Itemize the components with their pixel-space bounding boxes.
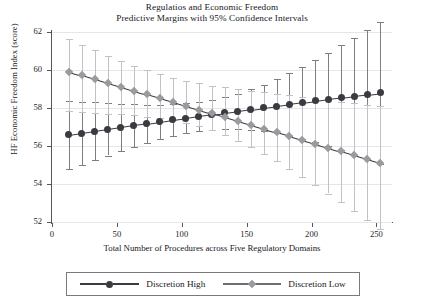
error-bar-cap	[261, 92, 268, 93]
error-bar	[251, 91, 252, 147]
y-tick-label: 54	[20, 178, 42, 188]
error-bar-cap	[377, 22, 384, 23]
error-bar	[238, 89, 239, 141]
error-bar-cap	[248, 91, 255, 92]
data-point-marker	[155, 94, 163, 102]
error-bar-cap	[286, 169, 293, 170]
legend-label-high: Discretion High	[146, 279, 205, 289]
data-point-marker	[260, 104, 267, 111]
error-bar-cap	[105, 56, 112, 57]
data-point-marker	[363, 155, 371, 163]
data-point-marker	[285, 132, 293, 140]
legend-item-discretion-low[interactable]: Discretion Low	[223, 279, 345, 289]
legend-line-low	[223, 283, 249, 284]
data-point-marker	[143, 120, 150, 127]
data-point-marker	[364, 91, 371, 98]
data-point-marker	[350, 151, 358, 159]
error-bar-cap	[235, 89, 242, 90]
data-point-marker	[142, 90, 150, 98]
data-point-marker	[325, 96, 332, 103]
plot-area	[52, 32, 392, 222]
error-bar-cap	[118, 151, 125, 152]
error-bar-cap	[377, 229, 384, 230]
error-bar-cap	[118, 114, 125, 115]
y-tick-label: 60	[20, 64, 42, 74]
data-point-marker	[233, 117, 241, 125]
x-axis-label: Total Number of Procedures across Five R…	[0, 243, 424, 253]
data-point-marker	[65, 131, 72, 138]
data-point-marker	[104, 79, 112, 87]
error-bar-cap	[274, 94, 281, 95]
legend-label-low: Discretion Low	[288, 279, 345, 289]
data-point-marker	[324, 143, 332, 151]
data-point-marker	[78, 130, 85, 137]
chart-figure: Regulatios and Economic Freedom Predicti…	[0, 0, 424, 307]
data-point-marker	[338, 94, 345, 101]
chart-subtitle: Predictive Margins with 95% Confidence I…	[0, 13, 424, 24]
error-bar-cap	[92, 160, 99, 161]
error-bar-cap	[377, 106, 384, 107]
x-tick-label: 200	[292, 229, 332, 239]
error-bar-cap	[196, 126, 203, 127]
error-bar	[264, 92, 265, 154]
data-point-marker	[377, 89, 384, 96]
error-bar-cap	[325, 194, 332, 195]
error-bar-cap	[183, 81, 190, 82]
x-tick-label: 250	[356, 229, 396, 239]
error-bar-cap	[79, 112, 86, 113]
error-bar-cap	[183, 123, 190, 124]
error-bar-cap	[274, 161, 281, 162]
data-point-marker	[130, 86, 138, 94]
legend-line-high-2	[113, 283, 139, 284]
data-point-marker	[247, 106, 254, 113]
data-point-marker	[156, 118, 163, 125]
error-bar-cap	[261, 154, 268, 155]
data-point-marker	[298, 136, 306, 144]
y-axis-label: HF Economic Freedom Index (score)	[9, 0, 19, 189]
error-bar-cap	[209, 130, 216, 131]
y-tick-label: 56	[20, 140, 42, 150]
grid-line	[52, 32, 392, 33]
error-bar-cap	[325, 53, 332, 54]
data-point-marker	[234, 108, 241, 115]
grid-line	[52, 222, 392, 223]
error-bar-cap	[131, 147, 138, 148]
error-bar-cap	[79, 45, 86, 46]
data-point-marker	[182, 115, 189, 122]
error-bar-cap	[79, 165, 86, 166]
error-bar-cap	[248, 147, 255, 148]
chart-legend: Discretion High Discretion Low	[66, 272, 360, 296]
data-point-marker	[299, 99, 306, 106]
error-bar-cap	[144, 70, 151, 71]
error-bar-cap	[299, 177, 306, 178]
error-bar-cap	[157, 74, 164, 75]
data-point-marker	[117, 82, 125, 90]
error-bar-cap	[351, 211, 358, 212]
error-bar-cap	[105, 114, 112, 115]
error-bar-cap	[312, 185, 319, 186]
data-point-marker	[130, 122, 137, 129]
x-tick-label: 100	[162, 229, 202, 239]
error-bar	[380, 106, 381, 229]
data-point-marker	[194, 105, 202, 113]
error-bar-cap	[196, 83, 203, 84]
data-point-marker	[246, 120, 254, 128]
error-bar-cap	[170, 136, 177, 137]
error-bar-cap	[92, 113, 99, 114]
error-bar-cap	[144, 117, 151, 118]
legend-item-discretion-high[interactable]: Discretion High	[80, 279, 205, 289]
error-bar-cap	[131, 66, 138, 67]
error-bar-cap	[66, 169, 73, 170]
data-point-marker	[91, 75, 99, 83]
y-tick-label: 52	[20, 216, 42, 226]
error-bar-cap	[209, 86, 216, 87]
legend-marker-diamond-icon	[248, 280, 256, 288]
data-point-marker	[169, 116, 176, 123]
error-bar-cap	[286, 73, 293, 74]
error-bar-cap	[338, 45, 345, 46]
data-point-marker	[117, 124, 124, 131]
error-bar-cap	[196, 131, 203, 132]
error-bar-cap	[235, 141, 242, 142]
x-tick-label: 0	[32, 229, 72, 239]
data-point-marker	[91, 128, 98, 135]
